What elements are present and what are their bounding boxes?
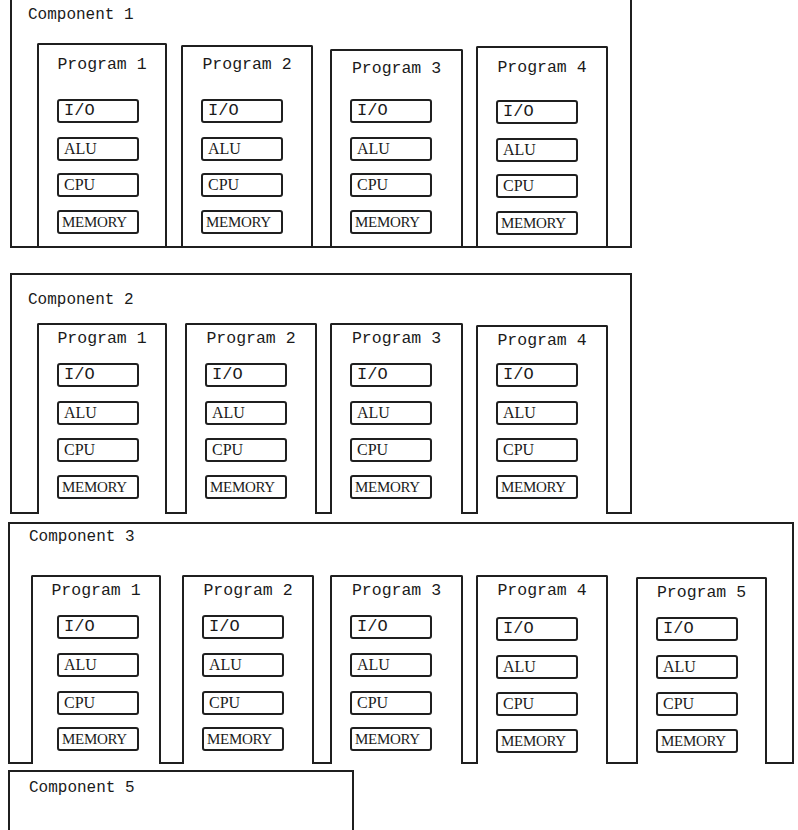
unit-memory: MEMORY bbox=[496, 729, 578, 753]
unit-io: I/O bbox=[656, 617, 738, 641]
unit-cpu: CPU bbox=[201, 173, 283, 197]
unit-memory: MEMORY bbox=[496, 211, 578, 235]
unit-memory: MEMORY bbox=[57, 210, 139, 234]
program-title: Program 1 bbox=[39, 329, 165, 348]
unit-io: I/O bbox=[57, 615, 139, 639]
unit-alu: ALU bbox=[57, 137, 139, 161]
unit-alu: ALU bbox=[350, 653, 432, 677]
unit-cpu: CPU bbox=[496, 438, 578, 462]
unit-memory: MEMORY bbox=[496, 475, 578, 499]
unit-alu: ALU bbox=[656, 655, 738, 679]
program-3: Program 3 I/O ALU CPU MEMORY bbox=[330, 575, 463, 764]
unit-alu: ALU bbox=[350, 401, 432, 425]
unit-cpu: CPU bbox=[656, 692, 738, 716]
program-2: Program 2 I/O ALU CPU MEMORY bbox=[181, 45, 313, 246]
program-title: Program 5 bbox=[638, 583, 765, 602]
component-3: Component 3 Program 1 I/O ALU CPU MEMORY… bbox=[8, 522, 794, 764]
unit-io: I/O bbox=[57, 363, 139, 387]
program-title: Program 3 bbox=[332, 329, 461, 348]
program-title: Program 3 bbox=[332, 59, 461, 78]
component-5: Component 5 bbox=[8, 770, 354, 830]
unit-alu: ALU bbox=[201, 137, 283, 161]
component-2: Component 2 Program 1 I/O ALU CPU MEMORY… bbox=[10, 273, 632, 514]
unit-io: I/O bbox=[350, 99, 432, 123]
program-title: Program 1 bbox=[39, 55, 165, 74]
program-3: Program 3 I/O ALU CPU MEMORY bbox=[330, 49, 463, 246]
program-title: Program 4 bbox=[478, 581, 606, 600]
unit-cpu: CPU bbox=[202, 691, 284, 715]
unit-cpu: CPU bbox=[350, 691, 432, 715]
unit-cpu: CPU bbox=[57, 691, 139, 715]
program-title: Program 3 bbox=[332, 581, 461, 600]
unit-memory: MEMORY bbox=[201, 210, 283, 234]
program-3: Program 3 I/O ALU CPU MEMORY bbox=[330, 323, 463, 514]
program-title: Program 2 bbox=[187, 329, 315, 348]
unit-memory: MEMORY bbox=[57, 727, 139, 751]
unit-alu: ALU bbox=[496, 655, 578, 679]
program-title: Program 2 bbox=[183, 55, 311, 74]
program-title: Program 4 bbox=[478, 58, 606, 77]
program-1: Program 1 I/O ALU CPU MEMORY bbox=[31, 575, 161, 764]
unit-alu: ALU bbox=[57, 653, 139, 677]
component-title: Component 3 bbox=[29, 528, 135, 546]
unit-memory: MEMORY bbox=[205, 475, 287, 499]
component-title: Component 2 bbox=[28, 291, 134, 309]
unit-alu: ALU bbox=[57, 401, 139, 425]
unit-alu: ALU bbox=[496, 401, 578, 425]
unit-cpu: CPU bbox=[496, 174, 578, 198]
program-5: Program 5 I/O ALU CPU MEMORY bbox=[636, 577, 767, 764]
unit-io: I/O bbox=[496, 617, 578, 641]
unit-cpu: CPU bbox=[350, 173, 432, 197]
program-title: Program 1 bbox=[33, 581, 159, 600]
program-2: Program 2 I/O ALU CPU MEMORY bbox=[182, 575, 314, 764]
unit-cpu: CPU bbox=[57, 173, 139, 197]
unit-io: I/O bbox=[202, 615, 284, 639]
program-4: Program 4 I/O ALU CPU MEMORY bbox=[476, 46, 608, 246]
unit-io: I/O bbox=[205, 363, 287, 387]
unit-memory: MEMORY bbox=[350, 727, 432, 751]
unit-cpu: CPU bbox=[205, 438, 287, 462]
program-1: Program 1 I/O ALU CPU MEMORY bbox=[37, 323, 167, 514]
unit-io: I/O bbox=[496, 363, 578, 387]
unit-io: I/O bbox=[496, 100, 578, 124]
component-title: Component 5 bbox=[29, 779, 135, 797]
unit-cpu: CPU bbox=[350, 438, 432, 462]
program-title: Program 2 bbox=[184, 581, 312, 600]
unit-memory: MEMORY bbox=[656, 729, 738, 753]
program-2: Program 2 I/O ALU CPU MEMORY bbox=[185, 323, 317, 514]
program-4: Program 4 I/O ALU CPU MEMORY bbox=[476, 325, 608, 514]
unit-cpu: CPU bbox=[57, 438, 139, 462]
unit-io: I/O bbox=[57, 99, 139, 123]
unit-io: I/O bbox=[350, 615, 432, 639]
unit-alu: ALU bbox=[202, 653, 284, 677]
unit-io: I/O bbox=[201, 99, 283, 123]
unit-alu: ALU bbox=[496, 138, 578, 162]
program-title: Program 4 bbox=[478, 331, 606, 350]
unit-memory: MEMORY bbox=[350, 210, 432, 234]
program-1: Program 1 I/O ALU CPU MEMORY bbox=[37, 43, 167, 246]
unit-memory: MEMORY bbox=[57, 475, 139, 499]
program-4: Program 4 I/O ALU CPU MEMORY bbox=[476, 575, 608, 764]
unit-alu: ALU bbox=[350, 137, 432, 161]
unit-cpu: CPU bbox=[496, 692, 578, 716]
unit-alu: ALU bbox=[205, 401, 287, 425]
component-1: Component 1 Program 1 I/O ALU CPU MEMORY… bbox=[10, 0, 632, 248]
unit-io: I/O bbox=[350, 363, 432, 387]
component-title: Component 1 bbox=[28, 6, 134, 24]
unit-memory: MEMORY bbox=[202, 727, 284, 751]
unit-memory: MEMORY bbox=[350, 475, 432, 499]
